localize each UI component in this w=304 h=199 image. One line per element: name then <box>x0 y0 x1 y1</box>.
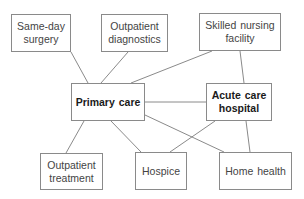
node-outpatient-treatment: Outpatient treatment <box>40 153 103 190</box>
edge-skilled-nursing-primary-care <box>131 51 212 83</box>
edge-skilled-nursing-acute-care <box>240 51 244 83</box>
node-primary-care: Primary care <box>71 83 145 121</box>
edge-primary-care-hospice <box>111 121 141 152</box>
edge-acute-care-hospice <box>170 121 215 152</box>
node-label: Skilled nursing facility <box>200 19 280 45</box>
edge-same-day-surgery-primary-care <box>71 52 88 83</box>
node-same-day-surgery: Same-day surgery <box>11 14 71 52</box>
edge-acute-care-home-health <box>246 121 250 152</box>
node-skilled-nursing-facility: Skilled nursing facility <box>199 13 281 51</box>
edge-primary-care-outpatient-treatment <box>66 121 84 153</box>
node-hospice: Hospice <box>135 152 187 190</box>
node-label: Same-day surgery <box>12 20 70 46</box>
edge-outpatient-diagnostics-primary-care <box>101 52 128 83</box>
node-label: Hospice <box>140 165 182 178</box>
node-home-health: Home health <box>219 152 292 190</box>
node-label: Outpatient diagnostics <box>102 20 167 46</box>
node-label: Home health <box>223 165 288 178</box>
node-acute-care-hospital: Acute care hospital <box>206 83 272 121</box>
node-label: Acute care hospital <box>207 89 271 115</box>
node-label: Outpatient treatment <box>41 159 102 185</box>
node-outpatient-diagnostics: Outpatient diagnostics <box>101 14 168 52</box>
node-label: Primary care <box>74 96 143 109</box>
